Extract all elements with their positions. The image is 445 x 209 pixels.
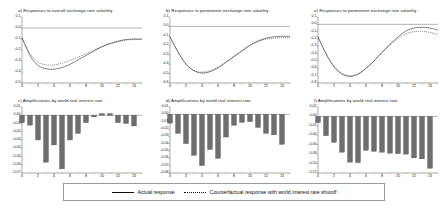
x-tick-label: 4 bbox=[201, 85, 203, 89]
x-tick-label: 10 bbox=[100, 175, 104, 179]
x-tick-label: 10 bbox=[248, 85, 252, 89]
x-tick-label: 0 bbox=[317, 85, 319, 89]
x-tick-label: 12 bbox=[264, 85, 268, 89]
x-tick-label: 14 bbox=[428, 85, 432, 89]
y-tick-label: -0.01 bbox=[12, 122, 20, 126]
x-tick-label: 8 bbox=[85, 85, 87, 89]
bar bbox=[420, 116, 425, 158]
y-tick-label: -0.07 bbox=[12, 171, 20, 175]
panel-b-plot: 0.10.0-0.1-0.2-0.3-0.4-0.5-0.60246810121… bbox=[170, 17, 290, 83]
panel-f-title: f) Amplifications by world real interest… bbox=[314, 98, 398, 103]
x-tick-label: 10 bbox=[248, 175, 252, 179]
y-tick-label: -0.6 bbox=[310, 67, 316, 71]
bar bbox=[108, 114, 113, 116]
bar bbox=[176, 114, 181, 133]
bar bbox=[356, 116, 361, 162]
panel-c-title: c) Amplifications by world real interest… bbox=[18, 98, 102, 103]
bar bbox=[44, 115, 49, 162]
bar bbox=[124, 115, 129, 123]
y-tick-label: -0.05 bbox=[160, 149, 168, 153]
bar bbox=[264, 114, 269, 133]
y-tick-label: -0.5 bbox=[162, 72, 168, 76]
y-tick-label: -0.2 bbox=[14, 48, 20, 52]
panel-d-title: d) Amplifications by world real interest… bbox=[166, 98, 251, 103]
x-tick-label: 4 bbox=[201, 175, 203, 179]
y-tick-label: -0.2 bbox=[310, 37, 316, 41]
y-tick-label: -0.04 bbox=[160, 142, 168, 146]
y-tick-label: -0.1 bbox=[162, 34, 168, 38]
y-tick-label: -0.6 bbox=[162, 81, 168, 85]
bar bbox=[364, 116, 369, 150]
bar bbox=[396, 116, 401, 153]
legend-item-counterfactual: Counterfactual response with world inter… bbox=[184, 189, 337, 195]
bar bbox=[428, 116, 433, 168]
panel-d-svg bbox=[170, 107, 290, 173]
y-tick-label: 0.1 bbox=[164, 15, 169, 19]
y-tick-label: 0.01 bbox=[14, 105, 21, 109]
y-tick-label: 0.0 bbox=[16, 26, 21, 30]
y-tick-label: -0.12 bbox=[308, 171, 316, 175]
y-tick-label: -0.4 bbox=[162, 62, 168, 66]
x-tick-label: 12 bbox=[412, 175, 416, 179]
bar bbox=[68, 115, 73, 140]
x-tick-label: 4 bbox=[53, 85, 55, 89]
x-tick-label: 12 bbox=[116, 175, 120, 179]
bar bbox=[348, 116, 353, 162]
y-tick-label: -0.03 bbox=[160, 135, 168, 139]
x-tick-label: 8 bbox=[233, 85, 235, 89]
panel-c-plot: 0.010.00-0.01-0.02-0.03-0.04-0.05-0.06-0… bbox=[22, 107, 142, 173]
series-line-actual bbox=[170, 36, 290, 73]
y-tick-label: 0.1 bbox=[16, 15, 21, 19]
y-tick-label: -0.05 bbox=[12, 155, 20, 159]
x-tick-label: 2 bbox=[333, 85, 335, 89]
x-tick-label: 14 bbox=[280, 85, 284, 89]
bar bbox=[200, 114, 205, 165]
panel-f: f) Amplifications by world real interest… bbox=[296, 98, 444, 186]
bar bbox=[372, 116, 377, 151]
panel-a: a) Responses to overall exchange rate vo… bbox=[0, 8, 148, 96]
x-tick-label: 14 bbox=[428, 175, 432, 179]
panel-b-title: b) Responses to permanent exchange rate … bbox=[166, 8, 269, 13]
bar bbox=[324, 116, 329, 135]
bar bbox=[388, 116, 393, 153]
y-tick-label: -0.10 bbox=[308, 162, 316, 166]
y-tick-label: -0.4 bbox=[310, 52, 316, 56]
y-tick-label: 0.0 bbox=[312, 23, 317, 27]
bar bbox=[232, 114, 237, 125]
bar bbox=[340, 116, 345, 152]
panel-f-svg bbox=[318, 107, 438, 173]
x-tick-label: 14 bbox=[280, 175, 284, 179]
y-tick-label: -0.04 bbox=[308, 133, 316, 137]
y-tick-label: -0.08 bbox=[160, 171, 168, 175]
series-line-counterfactual bbox=[22, 38, 142, 65]
panel-b: b) Responses to permanent exchange rate … bbox=[148, 8, 296, 96]
x-tick-label: 6 bbox=[365, 85, 367, 89]
bar bbox=[116, 115, 121, 122]
x-tick-label: 6 bbox=[69, 175, 71, 179]
bar bbox=[208, 114, 213, 149]
panel-e-title: e) Responses to permanent exchange rate … bbox=[314, 8, 417, 13]
panel-c-svg bbox=[22, 107, 142, 173]
y-tick-label: -0.7 bbox=[310, 74, 316, 78]
x-tick-label: 2 bbox=[37, 85, 39, 89]
panel-e-svg bbox=[318, 17, 438, 83]
bar bbox=[52, 115, 57, 145]
panel-b-svg bbox=[170, 17, 290, 83]
y-tick-label: -0.08 bbox=[308, 152, 316, 156]
x-tick-label: 10 bbox=[396, 85, 400, 89]
bar bbox=[28, 115, 33, 125]
solid-line-icon bbox=[112, 192, 134, 193]
y-tick-label: -0.5 bbox=[310, 59, 316, 63]
y-tick-label: 0.01 bbox=[162, 105, 169, 109]
x-tick-label: 0 bbox=[317, 175, 319, 179]
x-tick-label: 4 bbox=[349, 85, 351, 89]
y-tick-label: -0.02 bbox=[12, 130, 20, 134]
y-tick-label: 0.00 bbox=[14, 113, 21, 117]
y-tick-label: -0.01 bbox=[160, 120, 168, 124]
bar bbox=[84, 115, 89, 122]
x-tick-label: 14 bbox=[132, 85, 136, 89]
y-tick-label: -0.02 bbox=[308, 124, 316, 128]
y-tick-label: -0.5 bbox=[14, 81, 20, 85]
y-tick-label: -0.1 bbox=[310, 30, 316, 34]
bar bbox=[100, 114, 105, 116]
